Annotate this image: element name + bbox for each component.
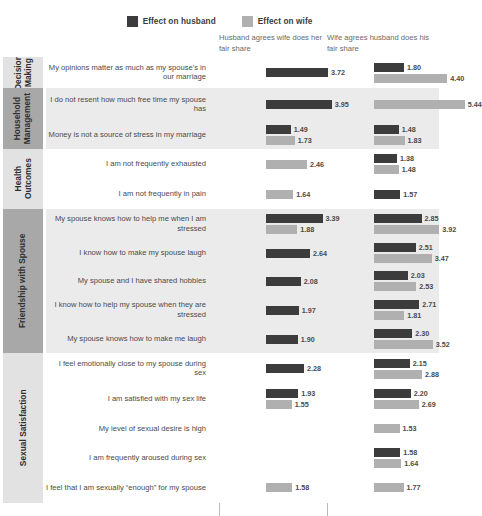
row-statement: I am not frequently in pain [46, 189, 206, 199]
bar-group-p1: 1.931.55 [266, 384, 366, 414]
bar-wife [266, 190, 293, 199]
row-statement: My spouse and I have shared hobbies [46, 276, 206, 286]
bar-wife [266, 136, 295, 145]
category-label-4: Sexual Satisfaction [3, 353, 43, 503]
bar-group-p2: 1.381.48 [374, 149, 474, 179]
bar-value-label: 1.80 [407, 63, 421, 72]
chart-row: I do not resent how much free time my sp… [46, 88, 439, 121]
bar-value-label: 1.73 [298, 136, 312, 145]
row-statement: My spouse knows how to make me laugh [46, 334, 206, 344]
chart-row: I know how to make my spouse laugh2.642.… [46, 239, 439, 267]
bar-value-label: 3.92 [442, 225, 456, 234]
row-statement: I am not frequently exhausted [46, 159, 206, 169]
chart-row: I feel that I am sexually “enough” for m… [46, 472, 439, 503]
bar-husband [266, 249, 310, 258]
bar-wife [374, 254, 432, 263]
bar-wife [374, 165, 399, 174]
category-label-text: Friendship with Spouse [18, 234, 28, 328]
bar-value-label: 2.15 [413, 359, 427, 368]
bar-value-label: 1.64 [296, 190, 310, 199]
bar-group-p1: 3.391.88 [266, 209, 366, 239]
bar-value-label: 2.69 [422, 400, 436, 409]
bar-husband [374, 389, 411, 398]
bar-group-p2: 2.711.81 [374, 295, 474, 325]
bar-group-p1 [266, 414, 366, 443]
category-label-text: DecisionMaking [13, 57, 32, 88]
bar-wife [266, 400, 292, 409]
legend-label-wife: Effect on wife [258, 17, 313, 26]
bar-husband [374, 448, 400, 457]
bar-group-p2: 2.303.52 [374, 325, 474, 353]
bar-group-p1: 3.95 [266, 88, 366, 121]
bar-wife [374, 400, 419, 409]
panel-headers: Husband agrees wife does her fair share … [0, 33, 439, 55]
bar-wife [374, 340, 433, 349]
row-statement: Money is not a source of stress in my ma… [46, 130, 206, 140]
bar-value-label: 5.44 [468, 100, 482, 109]
bar-wife [374, 459, 401, 468]
bar-husband [374, 243, 416, 252]
row-statement: I know how to help my spouse when they a… [46, 300, 206, 319]
bar-group-p1: 1.64 [266, 179, 366, 209]
bar-value-label: 2.08 [304, 277, 318, 286]
bar-group-p1: 1.90 [266, 325, 366, 353]
bar-husband [374, 214, 422, 223]
bar-group-p2: 5.44 [374, 88, 474, 121]
row-statement: I feel that I am sexually “enough” for m… [46, 483, 206, 493]
chart-legend: Effect on husbandEffect on wife [0, 14, 439, 28]
bar-value-label: 1.58 [403, 448, 417, 457]
bar-value-label: 1.57 [403, 190, 417, 199]
bar-value-label: 2.71 [422, 300, 436, 309]
category-label-text: HouseholdManagement [13, 93, 32, 144]
bar-value-label: 1.83 [408, 136, 422, 145]
bar-wife [266, 483, 292, 492]
bar-group-p2: 1.53 [374, 414, 474, 443]
legend-label-husband: Effect on husband [143, 17, 216, 26]
bar-value-label: 3.95 [335, 100, 349, 109]
bar-group-p1: 2.28 [266, 353, 366, 384]
bar-value-label: 2.64 [313, 249, 327, 258]
category-label-0: DecisionMaking [3, 57, 43, 88]
row-statement: I am satisfied with my sex life [46, 394, 206, 404]
chart-row: My spouse and I have shared hobbies2.082… [46, 267, 439, 295]
bar-husband [374, 190, 400, 199]
chart-row: I am frequently aroused during sex1.581.… [46, 443, 439, 472]
bar-husband [266, 68, 328, 77]
category-label-text: HealthOutcomes [13, 159, 32, 200]
bar-value-label: 2.20 [414, 389, 428, 398]
category-label-3: Friendship with Spouse [3, 209, 43, 353]
bar-group-p2: 1.804.40 [374, 57, 474, 88]
bar-value-label: 1.48 [402, 165, 416, 174]
bar-wife [374, 424, 400, 433]
bar-wife [374, 100, 465, 109]
chart-row: Money is not a source of stress in my ma… [46, 121, 439, 149]
panel-header-1: Husband agrees wife does her fair share [219, 33, 323, 54]
bar-group-p2: 2.513.47 [374, 239, 474, 267]
legend-item-husband: Effect on husband [127, 16, 216, 27]
legend-item-wife: Effect on wife [242, 16, 313, 27]
bar-value-label: 3.72 [331, 68, 345, 77]
bar-husband [374, 125, 399, 134]
chart-row: I am not frequently in pain1.641.57 [46, 179, 439, 209]
chart-row: I am satisfied with my sex life1.931.552… [46, 384, 439, 414]
row-statement: I feel emotionally close to my spouse du… [46, 359, 206, 378]
bar-wife [374, 225, 439, 234]
bar-group-p2: 1.57 [374, 179, 474, 209]
bar-wife [374, 483, 404, 492]
bar-group-p2: 1.77 [374, 472, 474, 503]
bar-wife [374, 311, 404, 320]
bar-husband [374, 154, 397, 163]
bar-husband [266, 389, 298, 398]
bar-husband [266, 306, 299, 315]
plot-area: DecisionMakingMy opinions matter as much… [0, 57, 439, 516]
bar-group-p2: 1.581.64 [374, 443, 474, 472]
bar-value-label: 3.47 [435, 254, 449, 263]
bar-value-label: 2.88 [425, 370, 439, 379]
bar-value-label: 1.38 [400, 154, 414, 163]
chart-row: My spouse knows how to make me laugh1.90… [46, 325, 439, 353]
bar-group-p2: 1.481.83 [374, 121, 474, 149]
category-label-text: Sexual Satisfaction [18, 390, 28, 467]
bar-value-label: 2.46 [310, 160, 324, 169]
chart-row: My opinions matter as much as my spouse'… [46, 57, 439, 88]
bar-group-p1: 2.08 [266, 267, 366, 295]
